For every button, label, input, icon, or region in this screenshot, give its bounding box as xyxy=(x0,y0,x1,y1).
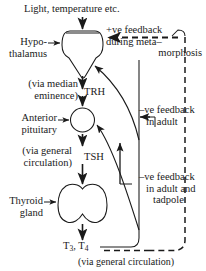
anterior-pituitary-line2: pituitary xyxy=(21,124,57,135)
via-median-line2: eminence) xyxy=(34,90,78,101)
thyroid-gland-label: Thyroidgland xyxy=(0,195,43,218)
pos-feedback-line3: morphosis xyxy=(106,47,202,59)
via-general-circulation-bottom-label: (via general circulation) xyxy=(78,256,174,267)
anterior-pituitary-label: Anteriorpituitary xyxy=(0,112,57,135)
negative-feedback-tadpole-label: –ve feedbackin adult andtadpole xyxy=(139,171,196,206)
thyroid-line2: gland xyxy=(20,207,43,218)
via-general-line2: circulation) xyxy=(24,157,72,168)
trh-label: TRH xyxy=(84,86,105,98)
hypothalamus-shape xyxy=(62,31,103,78)
neg-feedback-tadpole-line3: tadpole xyxy=(139,194,184,205)
thyroid-hormones-label: T3, T4 xyxy=(63,240,88,255)
tsh-label: TSH xyxy=(84,151,104,163)
anterior-pituitary-shape xyxy=(71,108,95,132)
via-median-line1: (via median xyxy=(28,78,78,89)
hormone-separator: , T xyxy=(73,240,84,251)
stimulus-label: Light, temperature etc. xyxy=(24,3,120,15)
neg-feedback-tadpole-line1: –ve feedback xyxy=(139,171,195,182)
negative-feedback-to-pituitary-curve xyxy=(97,125,139,230)
negative-feedback-to-hypothalamus-curve xyxy=(95,66,139,140)
positive-feedback-label: +ve feedbackduring meta–morphosis xyxy=(106,24,206,59)
thyroid-axis-diagram: Light, temperature etc. Hypo-thalamus (v… xyxy=(0,0,206,271)
via-median-eminence-label: (via medianeminence) xyxy=(0,78,78,101)
thyroid-gland-shape xyxy=(58,184,107,222)
hypothalamus-label-line2: thalamus xyxy=(9,48,47,59)
thyroid-line1: Thyroid xyxy=(9,195,43,206)
via-general-circulation-label: (via generalcirculation) xyxy=(0,145,72,168)
negative-feedback-adult-label: –ve feedbackin adult xyxy=(139,104,195,127)
hormone-t4-subscript: 4 xyxy=(85,244,89,253)
pos-feedback-line2: during meta– xyxy=(106,36,162,47)
pos-feedback-line1: +ve feedback xyxy=(106,24,162,35)
anterior-pituitary-line1: Anterior xyxy=(21,112,57,123)
hypothalamus-label: Hypo-thalamus xyxy=(0,36,47,59)
neg-feedback-adult-line2: in adult xyxy=(139,116,178,127)
via-general-line1: (via general xyxy=(22,145,72,156)
hypothalamus-label-line1: Hypo- xyxy=(20,36,47,47)
systemic-circulation-dashed-return xyxy=(100,37,185,251)
neg-feedback-adult-line1: –ve feedback xyxy=(139,104,195,115)
neg-feedback-tadpole-line2: in adult and xyxy=(139,183,196,194)
